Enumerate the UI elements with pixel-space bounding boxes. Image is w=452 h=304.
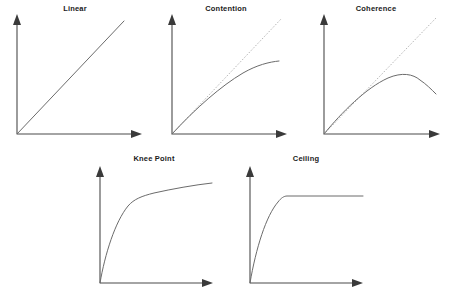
chart-contention xyxy=(151,4,301,146)
curve-linear-speedup xyxy=(17,21,124,134)
curve-contention-speedup xyxy=(172,61,279,134)
curve-coherence-speedup xyxy=(324,74,436,134)
x-axis-arrowhead-coherence xyxy=(429,130,440,138)
panel-coherence: Coherence xyxy=(300,4,452,146)
x-axis-arrowhead-linear xyxy=(131,130,142,138)
curve-knee-point-speedup xyxy=(100,183,212,283)
y-axis-arrowhead-contention xyxy=(168,14,176,25)
curve-ceiling-speedup xyxy=(250,196,363,283)
y-axis-arrowhead-ceiling xyxy=(246,166,254,177)
x-axis-arrowhead-contention xyxy=(276,130,287,138)
x-axis-arrowhead-ceiling xyxy=(352,279,363,287)
panel-linear: Linear xyxy=(0,4,150,146)
panel-knee-point: Knee Point xyxy=(78,154,230,300)
y-axis-arrowhead-coherence xyxy=(320,14,328,25)
chart-ceiling xyxy=(230,154,382,300)
y-axis-arrowhead-linear xyxy=(13,14,21,25)
panel-ceiling: Ceiling xyxy=(230,154,382,300)
chart-linear xyxy=(0,4,150,146)
panel-contention: Contention xyxy=(151,4,301,146)
reference-line-coherence-ideal xyxy=(324,18,436,134)
scalability-curves-figure: Linear Contention Coherence xyxy=(0,0,452,304)
y-axis-arrowhead-knee-point xyxy=(96,166,104,177)
chart-coherence xyxy=(300,4,452,146)
chart-knee-point xyxy=(78,154,230,300)
x-axis-arrowhead-knee-point xyxy=(202,279,213,287)
